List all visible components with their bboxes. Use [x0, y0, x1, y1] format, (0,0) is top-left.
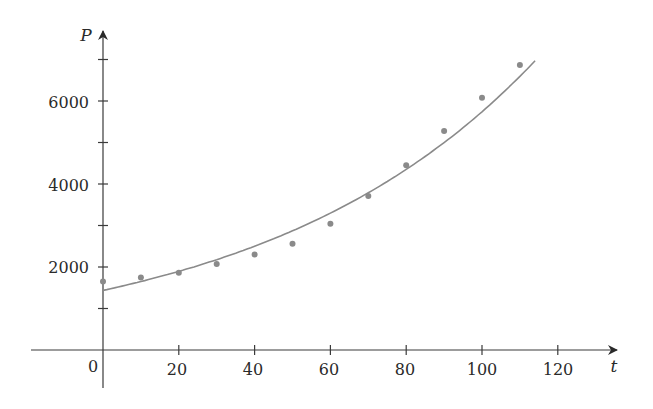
x-tick-label-60: 60	[319, 360, 339, 379]
x-tick-label-80: 80	[395, 360, 415, 379]
data-point	[403, 162, 409, 168]
data-point	[365, 193, 371, 199]
data-point	[176, 270, 182, 276]
x-tick-label-100: 100	[467, 360, 498, 379]
data-point	[252, 252, 258, 258]
x-tick-label-120: 120	[543, 360, 574, 379]
data-point	[441, 128, 447, 134]
data-point	[327, 221, 333, 227]
data-point	[214, 261, 220, 267]
chart: 0 20 40 60 80 100 120 2000 4000 6000 P t	[0, 0, 653, 409]
x-tick-label-0: 0	[88, 357, 98, 376]
x-axis-label: t	[611, 356, 618, 376]
data-point	[290, 241, 296, 247]
data-point	[517, 62, 523, 68]
exponential-model-curve	[103, 61, 535, 291]
x-tick-label-20: 20	[167, 360, 187, 379]
data-point	[100, 279, 106, 285]
data-point	[479, 95, 485, 101]
data-point	[138, 274, 144, 280]
y-tick-label-2000: 2000	[48, 258, 89, 277]
data-points	[100, 62, 523, 285]
y-tick-label-4000: 4000	[48, 176, 89, 195]
y-tick-label-6000: 6000	[48, 93, 89, 112]
x-tick-label-40: 40	[243, 360, 263, 379]
y-axis-label: P	[79, 25, 92, 45]
